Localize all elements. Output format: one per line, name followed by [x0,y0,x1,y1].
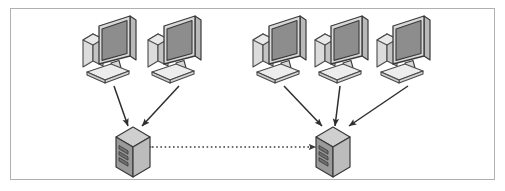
client-group-right-site [253,16,430,83]
server-left-server[interactable] [116,127,150,177]
server-icon [316,127,350,177]
server-right-server[interactable] [316,127,350,177]
diagram-canvas [0,0,505,191]
network-diagram [0,0,505,191]
server-icon [116,127,150,177]
